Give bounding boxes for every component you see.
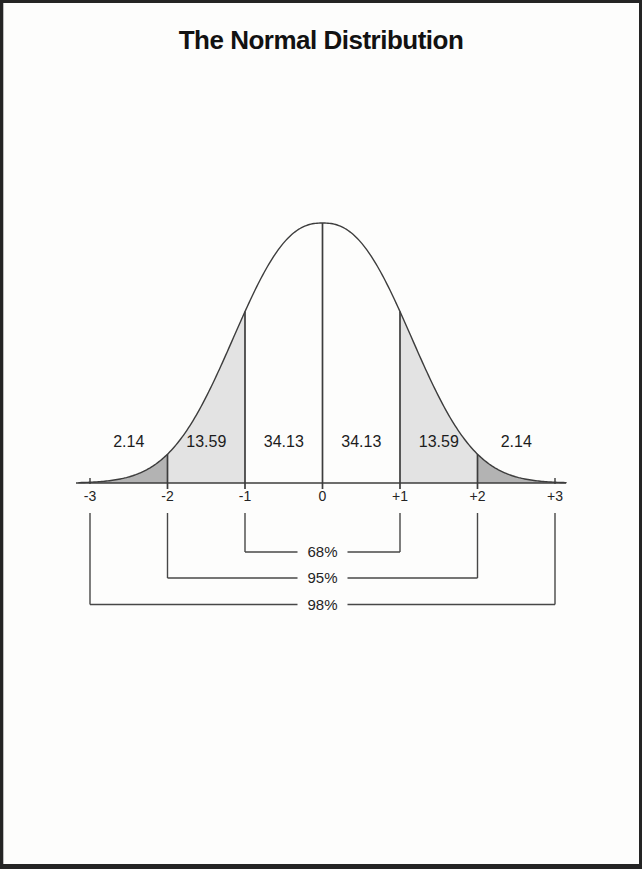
x-tick-label: +2 <box>470 488 486 504</box>
region-label: 34.13 <box>341 433 381 450</box>
region-label: 13.59 <box>419 433 459 450</box>
region-label: 2.14 <box>113 433 144 450</box>
normal-distribution-chart: 2.1413.5934.1334.1313.592.14-3-2-10+1+2+… <box>3 3 639 864</box>
x-tick-label: 0 <box>319 488 327 504</box>
x-tick-label: -2 <box>161 488 174 504</box>
region-label: 13.59 <box>186 433 226 450</box>
x-tick-label: +3 <box>547 488 563 504</box>
x-tick-label: +1 <box>392 488 408 504</box>
region-fill <box>90 454 168 483</box>
x-tick-label: -3 <box>84 488 97 504</box>
page-frame: The Normal Distribution 2.1413.5934.1334… <box>0 0 642 869</box>
region-label: 2.14 <box>501 433 532 450</box>
x-tick-label: -1 <box>239 488 252 504</box>
region-fill <box>478 454 556 483</box>
bracket-label: 68% <box>307 543 337 560</box>
bracket-label: 98% <box>307 596 337 613</box>
region-label: 34.13 <box>264 433 304 450</box>
bracket-label: 95% <box>307 569 337 586</box>
